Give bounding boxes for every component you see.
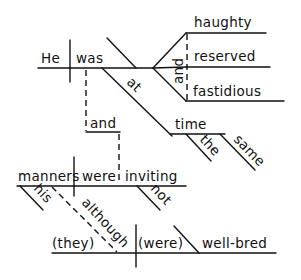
word-not: not [148, 180, 175, 208]
sentence-diagram: He was haughty reserved fastidious and a… [0, 0, 301, 280]
word-the: the [197, 131, 224, 159]
word-verb-was: was [76, 50, 103, 66]
predicate-complement-slash [107, 38, 136, 68]
word-time: time [175, 116, 207, 132]
word-and-adjectives: and [170, 58, 186, 84]
word-they: (they) [52, 235, 94, 251]
word-inviting: inviting [125, 168, 178, 184]
word-well-bred: well-bred [202, 235, 267, 251]
word-manners: manners [18, 168, 80, 184]
word-and-clause: and [90, 115, 116, 131]
word-subject-he: He [41, 50, 60, 66]
word-reserved: reserved [194, 48, 256, 64]
word-fastidious: fastidious [193, 83, 261, 99]
word-were: were [82, 168, 116, 184]
word-were-implied: (were) [138, 235, 183, 251]
word-haughty: haughty [194, 14, 252, 30]
